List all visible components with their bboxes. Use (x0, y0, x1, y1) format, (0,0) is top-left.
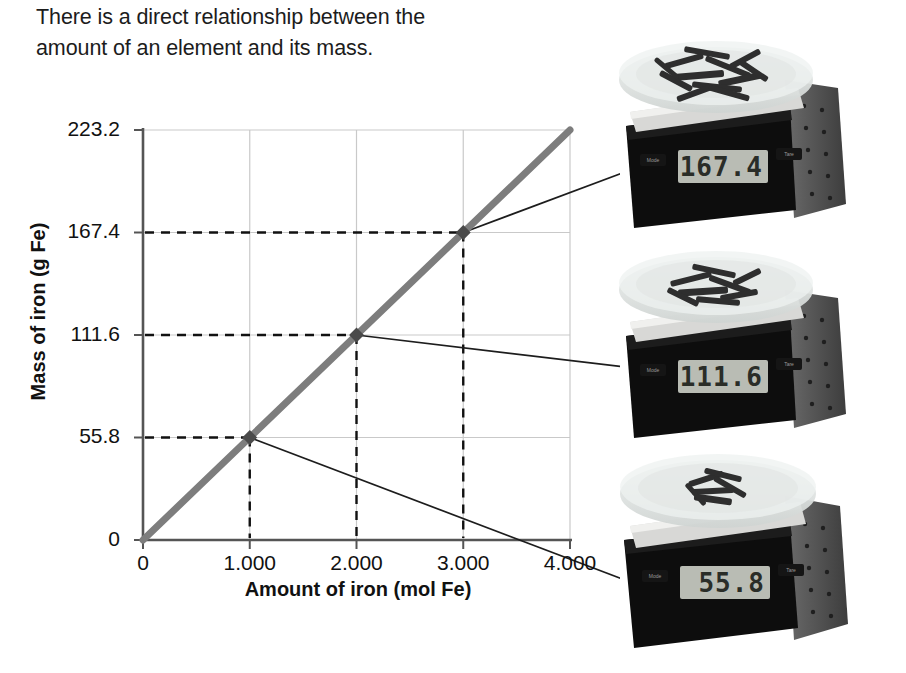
x-tick-3-000: 3.000 (413, 551, 513, 575)
y-tick-0: 0 (10, 527, 120, 551)
svg-text:Tare: Tare (786, 567, 796, 573)
y-tick-55-8: 55.8 (10, 424, 120, 448)
sample-dish (619, 251, 813, 323)
svg-text:Tare: Tare (784, 361, 794, 367)
balance-middle: 111.6 Mode Tare (608, 238, 906, 443)
x-tick-2-000: 2.000 (307, 551, 407, 575)
chart-figure: 223.2 167.4 111.6 55.8 0 0 1.000 2.000 3… (0, 0, 620, 640)
x-tick-0: 0 (93, 551, 193, 575)
lcd-reading: 111.6 (680, 362, 763, 392)
lcd-reading: 55.8 (698, 568, 765, 598)
balance-bottom: 55.8 Mode Tare (608, 448, 906, 663)
y-tick-223-2: 223.2 (10, 117, 120, 141)
x-tick-4-000: 4.000 (520, 551, 620, 575)
svg-text:Tare: Tare (784, 151, 794, 157)
balance-top: 167.4 Mode Tare (608, 28, 906, 233)
lcd-reading: 167.4 (680, 152, 763, 182)
svg-text:Mode: Mode (647, 367, 660, 373)
y-axis-title: Mass of iron (g Fe) (27, 197, 50, 427)
svg-text:Mode: Mode (647, 157, 660, 163)
x-tick-1-000: 1.000 (200, 551, 300, 575)
x-axis-title: Amount of iron (mol Fe) (143, 578, 573, 601)
svg-text:Mode: Mode (649, 573, 662, 579)
